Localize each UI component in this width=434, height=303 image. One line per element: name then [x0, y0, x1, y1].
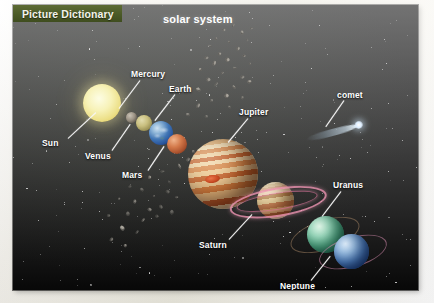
page-background: SunMercuryVenusEarthMarsJupitercometSatu… [0, 0, 434, 303]
label-sun: Sun [42, 138, 59, 148]
sun-body [83, 84, 121, 122]
banner-label: Picture Dictionary [22, 8, 114, 20]
neptune-body [334, 234, 369, 269]
label-uranus: Uranus [333, 180, 363, 190]
comet-head [353, 120, 364, 130]
label-mercury: Mercury [131, 69, 165, 79]
label-venus: Venus [85, 151, 111, 161]
saturn-body [257, 182, 294, 219]
label-earth: Earth [169, 84, 191, 94]
label-saturn: Saturn [199, 240, 227, 250]
picture-dictionary-banner: Picture Dictionary [13, 5, 122, 22]
mars-body [167, 134, 187, 154]
label-mars: Mars [122, 170, 142, 180]
label-comet: comet [337, 90, 363, 100]
page-title: solar system [163, 13, 233, 25]
label-jupiter: Jupiter [239, 107, 268, 117]
label-neptune: Neptune [280, 281, 315, 290]
solar-system-illustration: SunMercuryVenusEarthMarsJupitercometSatu… [13, 5, 418, 290]
jupiter-body [188, 139, 258, 209]
